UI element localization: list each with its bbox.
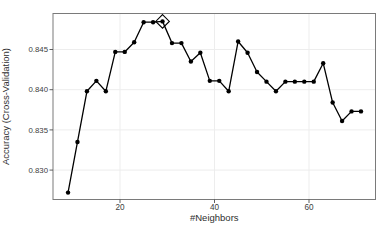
- y-tick-label: 0.845: [28, 45, 48, 54]
- data-point: [189, 59, 193, 63]
- data-point: [94, 79, 98, 83]
- data-point: [113, 50, 117, 54]
- data-point: [302, 79, 306, 83]
- data-point: [208, 79, 212, 83]
- data-point: [179, 41, 183, 45]
- data-point: [340, 119, 344, 123]
- knn-cv-accuracy-chart: 2040600.8300.8350.8400.845 #Neighbors Ac…: [0, 0, 389, 233]
- data-point: [330, 100, 334, 104]
- plot-svg: 2040600.8300.8350.8400.845 #Neighbors Ac…: [0, 0, 389, 233]
- x-axis-title: #Neighbors: [190, 212, 239, 223]
- data-point: [75, 140, 79, 144]
- data-point: [160, 19, 164, 23]
- data-point: [132, 40, 136, 44]
- data-point: [123, 50, 127, 54]
- y-axis-title: Accuracy (Cross-Validation): [0, 48, 11, 165]
- chart-layer: 2040600.8300.8350.8400.845: [28, 14, 375, 212]
- data-point: [255, 70, 259, 74]
- y-tick-label: 0.830: [28, 166, 48, 175]
- x-tick-label: 60: [304, 203, 314, 212]
- data-point: [321, 61, 325, 65]
- data-point: [293, 79, 297, 83]
- data-point: [170, 41, 174, 45]
- data-point: [349, 109, 353, 113]
- data-point: [264, 79, 268, 83]
- data-point: [283, 79, 287, 83]
- data-point: [359, 109, 363, 113]
- data-point: [141, 20, 145, 24]
- data-point: [85, 89, 89, 93]
- data-point: [274, 89, 278, 93]
- data-point: [226, 89, 230, 93]
- y-tick-label: 0.835: [28, 126, 48, 135]
- data-point: [151, 20, 155, 24]
- data-point: [312, 79, 316, 83]
- data-point: [217, 79, 221, 83]
- data-point: [198, 51, 202, 55]
- data-point: [236, 39, 240, 43]
- data-point: [66, 190, 70, 194]
- x-tick-label: 20: [115, 203, 125, 212]
- y-tick-label: 0.840: [28, 85, 48, 94]
- x-tick-label: 40: [210, 203, 220, 212]
- data-point: [245, 51, 249, 55]
- data-point: [104, 89, 108, 93]
